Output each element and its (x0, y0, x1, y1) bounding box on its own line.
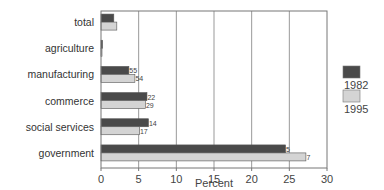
bar-1982 (101, 93, 147, 101)
category-label: commerce (45, 95, 94, 107)
x-axis-label: Percent (195, 177, 233, 189)
bar-value-label: 54 (135, 75, 143, 82)
bar-chart: 55542229141757 totalagriculturemanufactu… (0, 0, 384, 190)
bar-1995 (101, 127, 139, 135)
bar-value-label: 14 (149, 120, 157, 127)
bar-1982 (101, 119, 148, 127)
legend-label: 1995 (344, 103, 368, 115)
category-label: manufacturing (27, 68, 94, 80)
category-label: government (39, 147, 95, 159)
bar-value-label: 55 (129, 67, 137, 74)
legend-swatch (343, 66, 360, 78)
legend-swatch (343, 90, 360, 102)
bar-value-label: 22 (147, 94, 155, 101)
tick-label: 0 (98, 173, 104, 185)
bar-value-label: 7 (306, 154, 310, 161)
category-label: total (74, 16, 94, 28)
bar-value-label: 5 (286, 146, 290, 153)
tick-label: 10 (170, 173, 182, 185)
bar-1982 (101, 14, 114, 22)
bar-1995 (101, 74, 135, 82)
legend: 19821995 (343, 66, 368, 115)
tick-label: 5 (136, 173, 142, 185)
legend-label: 1982 (344, 79, 368, 91)
bar-1995 (101, 22, 117, 30)
bar-1995 (101, 153, 306, 161)
tick-label: 30 (321, 173, 333, 185)
bar-value-label: 17 (140, 128, 148, 135)
tick-label: 25 (283, 173, 295, 185)
bar-1982 (101, 66, 129, 74)
bar-1995 (101, 101, 145, 109)
tick-label: 20 (246, 173, 258, 185)
grid-lines (139, 11, 290, 168)
bar-value-label: 29 (146, 102, 154, 109)
category-label: social services (26, 121, 94, 133)
bars: 55542229141757 (101, 14, 310, 161)
bar-1982 (101, 145, 286, 153)
category-label: agriculture (45, 42, 94, 54)
category-labels: totalagriculturemanufacturingcommercesoc… (26, 16, 94, 159)
